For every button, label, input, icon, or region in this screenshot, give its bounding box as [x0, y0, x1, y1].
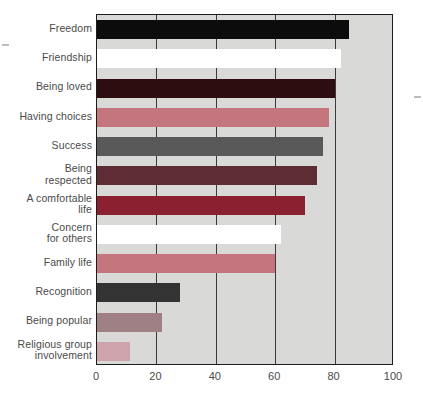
value-axis-labels: 020406080100	[96, 370, 393, 390]
category-label: Success	[0, 140, 92, 152]
category-axis-labels: FreedomFriendshipBeing lovedHaving choic…	[0, 14, 92, 365]
bar	[97, 283, 180, 302]
bar	[97, 342, 130, 361]
category-label: Being popular	[0, 315, 92, 327]
x-tick-label: 20	[149, 370, 161, 382]
plot-area	[96, 14, 393, 365]
category-label: Recognition	[0, 286, 92, 298]
bar	[97, 254, 275, 273]
category-label: Family life	[0, 257, 92, 269]
category-label: Friendship	[0, 52, 92, 64]
bar	[97, 166, 317, 185]
bar	[97, 313, 162, 332]
x-tick-label: 60	[268, 370, 280, 382]
bar	[97, 196, 305, 215]
bar	[97, 137, 323, 156]
x-tick-label: 100	[384, 370, 402, 382]
bar	[97, 49, 341, 68]
bar	[97, 225, 281, 244]
category-label: Freedom	[0, 23, 92, 35]
horizontal-bar-chart: FreedomFriendshipBeing lovedHaving choic…	[0, 0, 423, 405]
x-tick-label: 40	[209, 370, 221, 382]
x-tick-label: 80	[327, 370, 339, 382]
x-tick-label: 0	[93, 370, 99, 382]
bar	[97, 20, 349, 39]
category-label: Having choices	[0, 111, 92, 123]
category-label: Concernfor others	[0, 222, 92, 245]
bar	[97, 108, 329, 127]
scan-artifact-right	[414, 96, 421, 98]
category-label: Being loved	[0, 81, 92, 93]
category-label: Beingrespected	[0, 163, 92, 186]
bar	[97, 79, 335, 98]
bars-layer	[97, 15, 392, 364]
category-label: Religious groupinvolvement	[0, 339, 92, 362]
category-label: A comfortablelife	[0, 193, 92, 216]
